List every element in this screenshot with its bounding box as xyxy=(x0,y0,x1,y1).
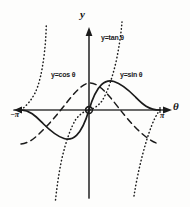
tan-branch-left xyxy=(21,25,46,110)
plot-canvas xyxy=(0,0,190,207)
tan-curve-label: y=tan θ xyxy=(101,34,124,41)
theta-axis-label: θ xyxy=(173,100,179,112)
cos-curve-label: y=cos θ xyxy=(51,71,75,78)
trig-functions-figure: y θ −π π y=tan θ y=cos θ y=sin θ xyxy=(0,0,190,207)
y-axis-label: y xyxy=(80,8,85,20)
tan-curve xyxy=(21,22,160,200)
sin-curve-label: y=sin θ xyxy=(120,71,142,78)
x-tick-label-positive-pi: π xyxy=(160,111,164,120)
tan-branch-right xyxy=(134,110,160,196)
x-tick-label-negative-pi: −π xyxy=(10,110,19,119)
